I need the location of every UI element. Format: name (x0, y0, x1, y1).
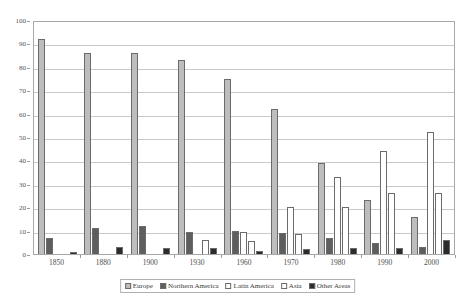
legend-label: Other Areas (317, 282, 351, 290)
bar-asia-1960 (248, 241, 255, 254)
bar-europe-1900 (131, 53, 138, 254)
x-axis-tick-label: 1880 (80, 258, 127, 272)
bar-northern-america-2000 (419, 247, 426, 254)
legend-item-europe: Europe (125, 282, 153, 290)
bar-asia-1980 (342, 207, 349, 254)
bar-group-1960 (224, 22, 263, 254)
bar-latin-america-2000 (427, 132, 434, 254)
y-axis-tick-mark (27, 232, 30, 233)
bar-asia-1990 (388, 193, 395, 254)
bar-europe-1960 (224, 79, 231, 255)
legend-label: Europe (133, 282, 153, 290)
bar-northern-america-1930 (186, 232, 193, 254)
bar-northern-america-1960 (232, 231, 239, 254)
bar-northern-america-1990 (372, 243, 379, 254)
y-axis-tick-mark (27, 138, 30, 139)
bar-northern-america-1900 (139, 226, 146, 254)
y-axis-tick-mark (27, 21, 30, 22)
x-axis-tick-label: 1990 (361, 258, 408, 272)
x-axis-tick-label: 1970 (267, 258, 314, 272)
y-axis-tick-mark (27, 44, 30, 45)
legend: EuropeNorthern AmericaLatin AmericaAsiaO… (120, 279, 356, 293)
y-axis-tick-label: 100 (16, 18, 27, 25)
legend-swatch-icon (226, 283, 232, 289)
bar-group-1880 (84, 22, 123, 254)
x-axis-tick-label: 1980 (314, 258, 361, 272)
bars-layer (34, 22, 454, 254)
x-axis-tick-mark (267, 255, 268, 258)
bar-asia-1930 (202, 240, 209, 254)
y-axis-tick-label: 40 (19, 158, 26, 165)
x-axis-tick-label: 2000 (408, 258, 455, 272)
legend-item-other-areas: Other Areas (309, 282, 351, 290)
legend-swatch-icon (160, 283, 166, 289)
y-axis-tick-label: 90 (19, 41, 26, 48)
bar-other-areas-1970 (303, 249, 310, 254)
y-axis-tick-label: 30 (19, 181, 26, 188)
x-axis-tick-mark (127, 255, 128, 258)
bar-asia-2000 (435, 193, 442, 254)
bar-europe-1850 (38, 39, 45, 254)
legend-swatch-icon (281, 283, 287, 289)
x-axis-tick-mark (314, 255, 315, 258)
bar-northern-america-1970 (279, 233, 286, 254)
bar-latin-america-1960 (240, 232, 247, 254)
bar-europe-1990 (364, 200, 371, 254)
bar-latin-america-1990 (380, 151, 387, 254)
bar-other-areas-1930 (210, 248, 217, 254)
bar-other-areas-1850 (70, 252, 77, 254)
bar-latin-america-1970 (287, 207, 294, 254)
plot-area (33, 21, 455, 255)
x-axis-tick-mark (455, 255, 456, 258)
bar-other-areas-1900 (163, 248, 170, 254)
bar-europe-2000 (411, 217, 418, 254)
y-axis-tick-mark (27, 185, 30, 186)
legend-swatch-icon (309, 283, 315, 289)
bar-other-areas-1980 (350, 248, 357, 254)
bar-asia-1970 (295, 234, 302, 254)
y-axis-tick-mark (27, 115, 30, 116)
bar-group-1930 (178, 22, 217, 254)
x-axis-tick-mark (221, 255, 222, 258)
bar-other-areas-2000 (443, 240, 450, 254)
legend-item-northern-america: Northern America (160, 282, 219, 290)
bar-europe-1880 (84, 53, 91, 254)
x-axis-tick-mark (408, 255, 409, 258)
legend-swatch-icon (125, 283, 131, 289)
y-axis-tick-label: 10 (19, 228, 26, 235)
x-axis-tick-label: 1960 (221, 258, 268, 272)
x-axis-tick-label: 1850 (33, 258, 80, 272)
bar-group-1900 (131, 22, 170, 254)
bar-other-areas-1990 (396, 248, 403, 254)
y-axis-tick-label: 0 (23, 252, 27, 259)
y-axis-tick-mark (27, 208, 30, 209)
y-axis-tick-label: 80 (19, 64, 26, 71)
bar-group-1850 (38, 22, 77, 254)
bar-other-areas-1880 (116, 247, 123, 254)
y-axis-tick-label: 20 (19, 205, 26, 212)
bar-group-2000 (411, 22, 450, 254)
legend-item-latin-america: Latin America (226, 282, 274, 290)
y-axis-tick-mark (27, 91, 30, 92)
x-axis-tick-mark (80, 255, 81, 258)
legend-label: Northern America (168, 282, 219, 290)
bar-other-areas-1960 (256, 251, 263, 255)
bar-northern-america-1850 (46, 238, 53, 254)
bar-group-1970 (271, 22, 310, 254)
y-axis-tick-label: 70 (19, 88, 26, 95)
y-axis-tick-label: 50 (19, 135, 26, 142)
y-axis-tick-mark (27, 161, 30, 162)
bar-northern-america-1880 (92, 228, 99, 254)
x-axis: 185018801900193019601970198019902000 (33, 258, 455, 272)
legend-label: Latin America (234, 282, 274, 290)
bar-group-1990 (364, 22, 403, 254)
legend-label: Asia (289, 282, 302, 290)
y-axis-tick-mark (27, 255, 30, 256)
legend-item-asia: Asia (281, 282, 302, 290)
x-axis-tick-mark (174, 255, 175, 258)
bar-latin-america-1980 (334, 177, 341, 254)
y-axis: 0102030405060708090100 (0, 0, 30, 300)
bar-europe-1930 (178, 60, 185, 254)
bar-europe-1980 (318, 163, 325, 254)
bar-group-1980 (318, 22, 357, 254)
